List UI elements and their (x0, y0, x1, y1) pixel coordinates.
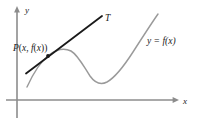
y-axis-group: y (14, 5, 29, 118)
x-axis-arrowhead-icon (173, 97, 179, 103)
point-of-tangency-marker (46, 54, 50, 58)
y-axis-label: y (24, 5, 29, 15)
tangent-line-figure: y x T P(x, f(x)) y = f(x) (0, 0, 197, 122)
x-axis-group: x (6, 96, 187, 106)
point-label-close-paren: ) (44, 43, 47, 54)
point-label: P(x, f(x)) (12, 43, 47, 54)
figure-canvas: y x T P(x, f(x)) y = f(x) (0, 0, 197, 122)
tangent-line-label: T (105, 13, 111, 23)
function-equation-label: y = f(x) (146, 36, 176, 47)
y-axis-arrowhead-icon (14, 6, 20, 12)
x-axis-label: x (182, 96, 187, 106)
